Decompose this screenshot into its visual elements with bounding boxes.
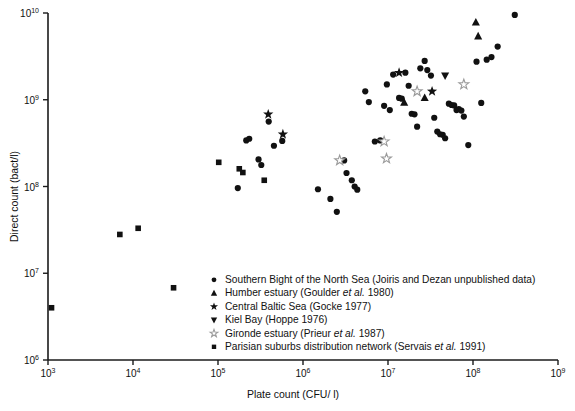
marker-square-5-6 xyxy=(240,170,246,176)
marker-circle-legend-0 xyxy=(212,277,217,282)
legend-item-4: Gironde estuary (Prieur et al. 1987) xyxy=(210,328,385,339)
marker-circle-0-0 xyxy=(235,185,241,191)
legend-item-3: Kiel Bay (Hoppe 1976) xyxy=(211,314,328,325)
legend-item-2: Central Baltic Sea (Gocke 1977) xyxy=(210,301,371,312)
marker-circle-0-6 xyxy=(271,143,277,149)
marker-circle-0-31 xyxy=(417,65,423,71)
marker-circle-0-21 xyxy=(384,81,390,87)
marker-circle-0-15 xyxy=(354,187,360,193)
marker-circle-0-52 xyxy=(495,43,501,49)
marker-circle-0-32 xyxy=(422,58,428,64)
marker-circle-0-45 xyxy=(458,107,464,113)
legend-label-2: Central Baltic Sea (Gocke 1977) xyxy=(225,301,371,312)
marker-circle-0-27 xyxy=(406,83,412,89)
marker-circle-0-39 xyxy=(442,135,448,141)
marker-circle-0-51 xyxy=(488,54,494,60)
marker-circle-0-35 xyxy=(431,115,437,121)
marker-circle-0-47 xyxy=(465,142,471,148)
marker-circle-0-30 xyxy=(414,124,420,130)
marker-circle-0-9 xyxy=(327,196,333,202)
marker-circle-0-46 xyxy=(461,113,467,119)
marker-circle-0-3 xyxy=(255,156,261,162)
marker-square-5-3 xyxy=(171,285,177,291)
marker-square-5-7 xyxy=(261,177,267,183)
marker-circle-0-8 xyxy=(315,186,321,192)
marker-square-5-0 xyxy=(49,305,55,311)
marker-circle-0-7 xyxy=(279,138,285,144)
marker-circle-0-4 xyxy=(258,162,264,168)
marker-circle-0-5 xyxy=(266,118,272,124)
legend-item-1: Humber estuary (Goulder et al. 1980) xyxy=(211,287,394,298)
marker-circle-0-20 xyxy=(381,103,387,109)
marker-circle-0-33 xyxy=(424,67,430,73)
legend-item-5: Parisian suburbs distribution network (S… xyxy=(212,341,486,352)
x-axis-title: Plate count (CFU/ l) xyxy=(247,388,339,400)
marker-circle-0-26 xyxy=(402,70,408,76)
legend-label-4: Gironde estuary (Prieur et al. 1987) xyxy=(225,328,385,339)
scatter-plot-figure: 1031041051061071081091061071081091010 Pl… xyxy=(0,0,575,411)
marker-circle-0-53 xyxy=(512,12,518,18)
marker-circle-0-18 xyxy=(372,138,378,144)
legend-label-5: Parisian suburbs distribution network (S… xyxy=(225,341,486,352)
marker-circle-0-2 xyxy=(246,136,252,142)
marker-square-legend-5 xyxy=(212,345,216,349)
marker-circle-0-22 xyxy=(387,107,393,113)
marker-circle-0-23 xyxy=(390,71,396,77)
plot-svg: 1031041051061071081091061071081091010 Pl… xyxy=(0,0,575,411)
marker-square-5-2 xyxy=(135,225,141,231)
marker-circle-0-16 xyxy=(362,88,368,94)
marker-circle-0-48 xyxy=(473,59,479,65)
marker-circle-0-17 xyxy=(366,99,372,105)
marker-square-5-4 xyxy=(216,160,222,166)
marker-circle-0-29 xyxy=(411,111,417,117)
legend-label-0: Southern Bight of the North Sea (Joiris … xyxy=(225,274,535,285)
marker-square-5-1 xyxy=(117,232,123,238)
marker-circle-0-49 xyxy=(478,100,484,106)
legend-item-0: Southern Bight of the North Sea (Joiris … xyxy=(212,274,536,285)
legend-label-3: Kiel Bay (Hoppe 1976) xyxy=(225,314,328,325)
marker-circle-0-13 xyxy=(349,177,355,183)
marker-circle-0-10 xyxy=(334,209,340,215)
y-axis-title: Direct count (bact/l) xyxy=(8,151,20,242)
marker-circle-0-12 xyxy=(343,170,349,176)
legend-label-1: Humber estuary (Goulder et al. 1980) xyxy=(225,287,394,298)
marker-circle-0-34 xyxy=(428,72,434,78)
